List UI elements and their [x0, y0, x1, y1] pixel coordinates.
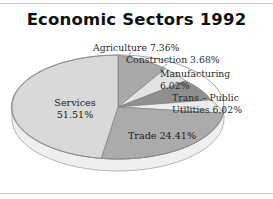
pie-label-construction: Construction 3.68%: [126, 54, 220, 66]
pie-label-manufacturing-line1: Manufacturing: [160, 68, 230, 79]
frame-bottom-rule: [0, 193, 273, 194]
pie-label-services-line1: Services: [54, 97, 95, 108]
pie-label-services-line2: 51.51%: [57, 109, 94, 120]
pie-label-trans-public-line2: Utilities 6.02%: [172, 104, 242, 115]
pie-label-agriculture: Agriculture 7.36%: [93, 42, 179, 54]
chart-frame: Economic Sectors 1992: [0, 0, 273, 199]
pie-label-manufacturing: Manufacturing 6.02%: [160, 68, 230, 91]
pie-label-trans-public-line1: Trans.– Public: [172, 92, 239, 103]
pie-label-services: Services 51.51%: [36, 97, 114, 121]
pie-label-manufacturing-line2: 6.02%: [160, 80, 190, 91]
pie-label-trans-public-utilities: Trans.– Public Utilities 6.02%: [172, 92, 242, 115]
pie-label-trade: Trade 24.41%: [114, 130, 210, 142]
